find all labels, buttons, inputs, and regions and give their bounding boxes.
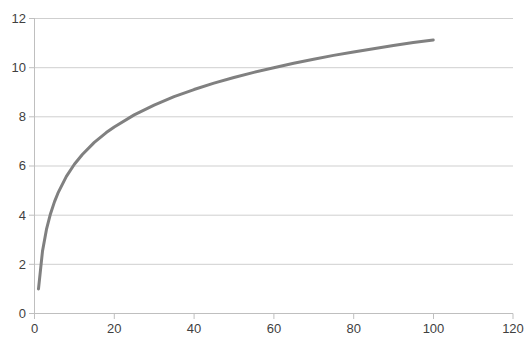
x-axis-label-120: 120 [493,322,530,335]
y-axis-label-8: 8 [0,110,26,123]
x-axis-label-100: 100 [414,322,454,335]
gridlines [34,19,513,265]
x-axis-label-80: 80 [334,322,374,335]
plot-area [0,0,530,345]
x-axis-label-40: 40 [174,322,214,335]
data-series-line [38,40,433,289]
y-axis-ticks [29,19,34,314]
y-axis-label-12: 12 [0,12,26,25]
x-axis-label-60: 60 [254,322,294,335]
y-axis-label-10: 10 [0,61,26,74]
x-axis-label-20: 20 [94,322,134,335]
y-axis-label-6: 6 [0,159,26,172]
chart-container: 12 10 8 6 4 2 0 0 20 40 60 80 100 120 [0,0,530,345]
y-axis-label-0: 0 [0,307,26,320]
x-axis-ticks [35,314,514,320]
y-axis-label-4: 4 [0,209,26,222]
y-axis-label-2: 2 [0,258,26,271]
x-axis-label-0: 0 [15,322,55,335]
